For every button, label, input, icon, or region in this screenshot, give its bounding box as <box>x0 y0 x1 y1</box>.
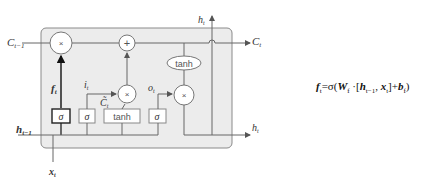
svg-text:tanh: tanh <box>175 59 193 69</box>
c-next-label: Ct <box>252 35 262 49</box>
svg-text:×: × <box>182 91 187 100</box>
x-in-label: xt <box>48 166 56 178</box>
h-out-top-label: ht <box>198 14 205 26</box>
h-prev-label: ht−1 <box>16 123 32 137</box>
forget-gate-formula: ft=σ(Wf ·[ht−1, xt]+bf) <box>316 80 410 95</box>
svg-text:tanh: tanh <box>113 112 131 122</box>
svg-text:+: + <box>124 37 130 49</box>
h-out-right-label: ht <box>252 122 259 134</box>
svg-text:×: × <box>125 90 130 99</box>
c-prev-label: Ct−1 <box>7 36 25 50</box>
svg-text:×: × <box>59 39 64 48</box>
lstm-cell-diagram: × + σ σ tanh σ × × tanh Ct−1 <box>0 0 300 183</box>
